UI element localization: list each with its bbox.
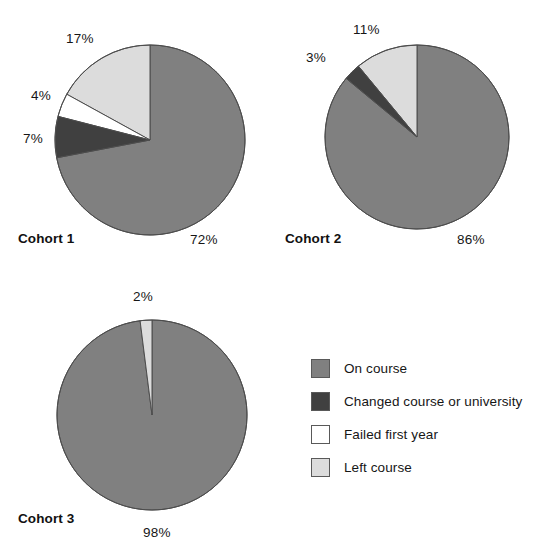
- legend-item-label: Left course: [344, 460, 412, 475]
- cohort-label-2: Cohort 2: [285, 231, 341, 246]
- legend-swatch-icon: [311, 392, 330, 411]
- cohort-label-1: Cohort 1: [18, 231, 74, 246]
- legend-item-left-course: Left course: [311, 451, 531, 484]
- pie-2-percent-label: 3%: [306, 50, 326, 65]
- chart-legend: On courseChanged course or universityFai…: [311, 352, 531, 484]
- cohort-label-3: Cohort 3: [18, 511, 74, 526]
- pie-1-percent-label: 72%: [190, 232, 218, 247]
- legend-item-changed-course: Changed course or university: [311, 385, 531, 418]
- legend-swatch-icon: [311, 458, 330, 477]
- pie-2: [325, 45, 509, 229]
- pie-3-percent-label: 2%: [133, 289, 153, 304]
- pie-1-percent-label: 7%: [23, 131, 43, 146]
- legend-item-failed-first-year: Failed first year: [311, 418, 531, 451]
- pie-1-percent-label: 17%: [66, 31, 94, 46]
- pie-2-percent-label: 11%: [353, 22, 380, 37]
- pie-3-percent-label: 98%: [143, 525, 171, 540]
- pie-3: [57, 320, 247, 510]
- pie-1-percent-label: 4%: [31, 88, 51, 103]
- pie-1: [55, 45, 245, 235]
- legend-item-on-course: On course: [311, 352, 531, 385]
- legend-item-label: On course: [344, 361, 407, 376]
- pie-chart-figure: 17%4%7%72%Cohort 111%3%86%Cohort 22%98%C…: [0, 0, 534, 551]
- pie-2-percent-label: 86%: [457, 232, 485, 247]
- legend-swatch-icon: [311, 425, 330, 444]
- legend-item-label: Failed first year: [344, 427, 438, 442]
- legend-item-label: Changed course or university: [344, 394, 522, 409]
- legend-swatch-icon: [311, 359, 330, 378]
